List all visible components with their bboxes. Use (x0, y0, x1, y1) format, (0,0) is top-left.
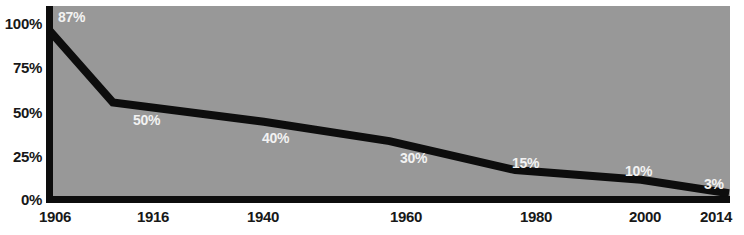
data-label-1940: 40% (262, 130, 289, 146)
data-label-2014: 3% (704, 176, 724, 192)
y-tick-label-25: 25% (0, 148, 42, 165)
x-axis-line (46, 196, 730, 203)
data-label-1980: 15% (512, 155, 539, 171)
data-label-2000: 10% (625, 163, 652, 179)
x-tick-label-1906: 1906 (39, 208, 71, 225)
x-tick-label-1940: 1940 (247, 208, 279, 225)
x-tick-label-1980: 1980 (520, 208, 552, 225)
data-label-1960: 30% (400, 150, 427, 166)
y-tick-label-75: 75% (0, 59, 42, 76)
x-tick-label-2014: 2014 (700, 208, 732, 225)
y-tick-label-0: 0% (0, 191, 42, 208)
y-axis-line (46, 6, 53, 203)
data-label-1906: 87% (58, 9, 85, 25)
chart-container: 100% 75% 50% 25% 0% 1906 1916 1940 1960 … (0, 0, 744, 235)
y-tick-label-50: 50% (0, 104, 42, 121)
data-label-1916: 50% (133, 112, 160, 128)
x-tick-label-2000: 2000 (629, 208, 661, 225)
x-tick-label-1916: 1916 (137, 208, 169, 225)
y-tick-label-100: 100% (0, 15, 42, 32)
x-tick-label-1960: 1960 (390, 208, 422, 225)
chart-title (0, 0, 744, 1)
